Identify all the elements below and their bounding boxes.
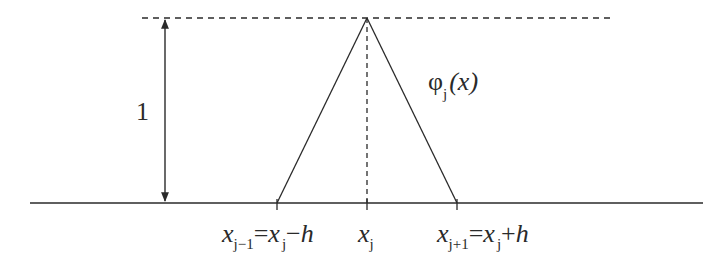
hat-left-side <box>277 18 367 203</box>
height-label: 1 <box>136 97 149 126</box>
hat-function-diagram: 1 φj(x) xj−1=xj−h xj xj+1=xj+h <box>0 0 718 260</box>
node-label-left: xj−1=xj−h <box>221 219 314 252</box>
function-label: φj(x) <box>428 67 478 102</box>
hat-right-side <box>367 18 457 203</box>
node-label-center: xj <box>357 219 374 252</box>
node-label-right: xj+1=xj+h <box>436 219 529 252</box>
